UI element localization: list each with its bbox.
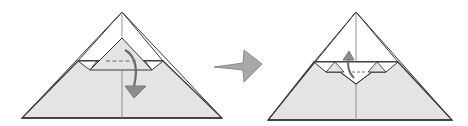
diagram-canvas [0, 0, 468, 126]
step-after [268, 12, 452, 120]
origami-diagram [0, 0, 468, 126]
next-step-arrow-icon [214, 50, 262, 82]
step-before [22, 12, 222, 118]
